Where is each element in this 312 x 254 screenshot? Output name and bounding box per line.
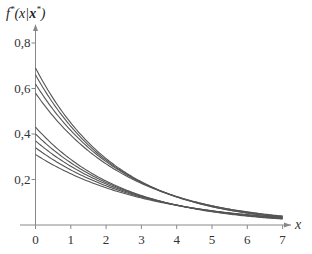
chart-area: x012345670,20,40,60,8 — [0, 0, 312, 254]
curve-lower-3 — [36, 141, 283, 218]
curve-upper-2 — [36, 75, 283, 217]
x-axis-label: x — [294, 217, 302, 232]
y-tick-label: 0,8 — [14, 35, 30, 50]
curves — [36, 68, 283, 219]
curve-upper-3 — [36, 84, 283, 216]
x-axis-arrow-icon — [284, 223, 291, 228]
x-tick-label: 6 — [244, 232, 251, 247]
curve-upper-1 — [36, 68, 283, 217]
y-tick-label: 0,2 — [14, 172, 30, 187]
x-tick-label: 0 — [32, 232, 39, 247]
x-tick-label: 2 — [103, 232, 110, 247]
curve-lower-2 — [36, 134, 283, 219]
x-tick-label: 1 — [68, 232, 75, 247]
curve-lower-1 — [36, 127, 283, 219]
y-tick-label: 0,6 — [14, 81, 31, 96]
curve-lower-4 — [36, 148, 283, 218]
x-tick-label: 5 — [209, 232, 216, 247]
x-tick-label: 4 — [173, 232, 180, 247]
y-axis-arrow-icon — [33, 24, 38, 31]
y-tick-label: 0,4 — [14, 126, 31, 141]
x-tick-label: 7 — [279, 232, 286, 247]
x-tick-label: 3 — [138, 232, 145, 247]
curve-upper-4 — [36, 93, 283, 216]
